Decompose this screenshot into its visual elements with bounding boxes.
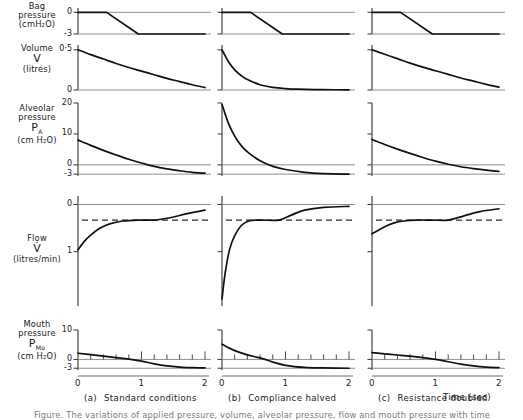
ytick-label-alveolar-pressure: 20 — [62, 98, 72, 107]
ytick-label-mouth-pressure: 10 — [62, 325, 72, 334]
ytick-label-alveolar-pressure: 0 — [67, 159, 72, 168]
ytick-label-volume: 0·5 — [59, 44, 72, 53]
trace-volume — [222, 50, 349, 90]
panel-bag-pressure-col2 — [218, 8, 356, 34]
xtick-label: 2 — [496, 378, 501, 388]
panel-bag-pressure-col1 — [74, 8, 212, 34]
xtick-label: 0 — [75, 378, 80, 388]
panel-flow-col1 — [74, 196, 212, 306]
panel-flow-col2 — [218, 196, 356, 306]
xtick-label: 0 — [369, 378, 374, 388]
panel-volume-col1 — [74, 45, 212, 90]
ytick-label-alveolar-pressure: 10 — [62, 128, 72, 137]
figure-caption-partial: Figure. The variations of applied pressu… — [34, 410, 490, 420]
ytick-label-mouth-pressure: 0 — [67, 354, 72, 363]
trace-flow — [372, 209, 499, 234]
panel-mouth-pressure-col2 — [218, 330, 356, 376]
panel-mouth-pressure-col3 — [368, 330, 506, 376]
row-label-alveolar-pressure: AlveolarpressurePA(cm H₂O) — [2, 104, 72, 145]
trace-volume — [78, 50, 205, 88]
xtick-label: 2 — [346, 378, 351, 388]
trace-bag-pressure — [372, 12, 499, 34]
trace-volume — [372, 50, 499, 87]
panel-alveolar-pressure-col3 — [368, 103, 506, 176]
trace-alveolar-pressure — [222, 105, 349, 175]
panel-alveolar-pressure-col1 — [74, 103, 212, 176]
xtick-label: 1 — [283, 378, 288, 388]
ytick-label-bag-pressure: 0 — [67, 7, 72, 16]
xtick-label: 1 — [139, 378, 144, 388]
ytick-label-alveolar-pressure: -3 — [64, 169, 72, 178]
trace-bag-pressure — [222, 12, 349, 34]
ytick-label-flow: 0 — [67, 199, 72, 208]
ytick-label-flow: 1 — [67, 246, 72, 255]
panel-alveolar-pressure-col2 — [218, 103, 356, 176]
panel-flow-col3 — [368, 196, 506, 306]
panel-mouth-pressure-col1 — [74, 330, 212, 376]
column-caption-2: (b)Compliance halved — [228, 393, 336, 403]
trace-alveolar-pressure — [372, 140, 499, 172]
trace-flow — [78, 210, 205, 250]
ytick-label-mouth-pressure: -3 — [64, 363, 72, 372]
xtick-label: 2 — [202, 378, 207, 388]
xtick-label: 0 — [219, 378, 224, 388]
panel-bag-pressure-col3 — [368, 8, 506, 34]
ytick-label-volume: 0 — [67, 85, 72, 94]
column-caption-1: (a)Standard conditions — [84, 393, 197, 403]
xtick-label: 1 — [433, 378, 438, 388]
trace-alveolar-pressure — [78, 140, 205, 173]
panel-volume-col3 — [368, 45, 506, 90]
ytick-label-bag-pressure: -3 — [64, 29, 72, 38]
row-label-flow: FlowV̇(litres/min) — [2, 234, 72, 264]
column-caption-3: (c)Resistance doubled — [378, 393, 488, 403]
row-label-bag-pressure: Bagpressure(cmH₂O) — [2, 2, 72, 29]
trace-bag-pressure — [78, 12, 205, 34]
panel-volume-col2 — [218, 45, 356, 90]
